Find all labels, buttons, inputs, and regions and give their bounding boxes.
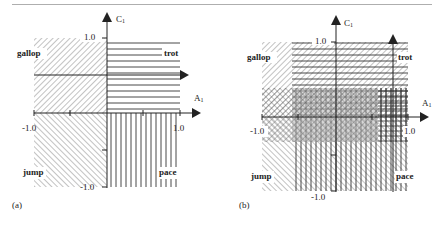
panel-a: C1 A1 1.0 -1.0 -1.0 1.0 gallop trot jump… <box>12 12 204 210</box>
label-gallop: gallop <box>17 48 41 58</box>
label-pace: pace <box>396 171 414 181</box>
tick-y-top: 1.0 <box>84 32 96 42</box>
gait-phase-diagram: C1 A1 1.0 -1.0 -1.0 1.0 gallop trot jump… <box>0 0 445 226</box>
y-axis-label: C1 <box>116 14 125 24</box>
x-axis-label: A1 <box>194 93 204 103</box>
tick-x-right: 1.0 <box>173 123 185 133</box>
tick-x-left: -1.0 <box>22 123 37 133</box>
x-axis-arrow-icon <box>420 112 429 122</box>
tick-y-top: 1.0 <box>315 36 327 46</box>
panel-b: C1 A1 1.0 -1.0 -1.0 1.0 gallop trot jump… <box>239 15 432 210</box>
y-axis-label: C1 <box>344 18 353 28</box>
label-trot: trot <box>164 48 178 58</box>
label-jump: jump <box>22 167 44 177</box>
x-axis-arrow-icon <box>192 108 201 118</box>
x-axis-label: A1 <box>422 98 432 108</box>
caption-b: (b) <box>239 200 250 210</box>
label-jump: jump <box>250 171 272 181</box>
label-gallop: gallop <box>247 52 271 62</box>
second-y-arrow-icon <box>388 34 398 44</box>
label-trot: trot <box>398 52 412 62</box>
caption-a: (a) <box>12 200 22 210</box>
tick-y-bottom: -1.0 <box>80 182 95 192</box>
mid-arrow-icon <box>180 70 189 80</box>
region-crosshatch <box>262 88 378 142</box>
y-axis-arrow-icon <box>331 15 341 25</box>
tick-y-bottom: -1.0 <box>311 192 326 202</box>
tick-x-left: -1.0 <box>250 126 265 136</box>
tick-x-right: 1.0 <box>404 126 416 136</box>
label-pace: pace <box>159 167 177 177</box>
y-axis-arrow-icon <box>102 12 112 22</box>
